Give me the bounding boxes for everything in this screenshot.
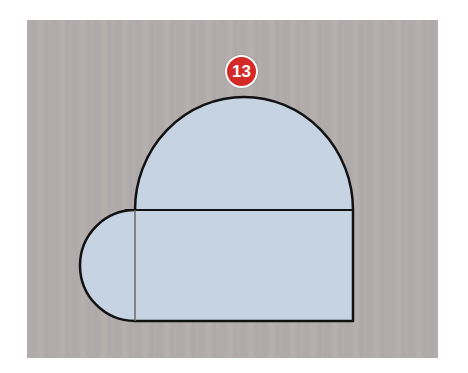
step-number-badge: 13 <box>225 55 258 88</box>
shape-outline <box>80 97 353 321</box>
